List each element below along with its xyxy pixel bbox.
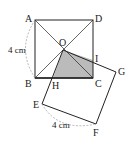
- label-o: O: [59, 37, 66, 48]
- label-d: D: [95, 13, 102, 24]
- label-h: H: [52, 80, 59, 91]
- label-f: F: [93, 127, 99, 138]
- label-b: B: [25, 78, 32, 89]
- label-c: C: [95, 78, 102, 89]
- dimension-arc-ab: [26, 20, 36, 78]
- dimension-label-ab: 4 cm: [8, 45, 26, 55]
- label-i: I: [95, 53, 98, 64]
- dimension-label-ef: 4 cm: [52, 120, 70, 130]
- label-g: G: [118, 66, 125, 77]
- label-e: E: [33, 99, 39, 110]
- label-a: A: [25, 13, 33, 24]
- geometry-diagram: A D B C O I H G E F 4 cm 4 cm: [0, 0, 135, 141]
